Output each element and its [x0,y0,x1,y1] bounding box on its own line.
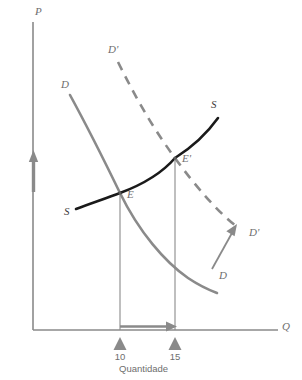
price-arrow-head [29,150,38,162]
xtick-marker-10 [114,337,127,350]
shift-arrow-head [226,224,237,236]
equilibrium-label-e: E [127,189,134,200]
curve-label-supply-top: S [211,99,217,110]
xtick-marker-15 [169,337,182,350]
demand-shift-arrow [212,224,237,269]
y-axis-symbol: P [35,6,42,17]
x-axis-symbol: Q [282,321,290,332]
shift-arrow-shaft [212,233,232,269]
supply-curve-s [76,118,218,209]
xtick-label-15: 15 [166,352,184,362]
chart-canvas [0,0,302,380]
curve-label-demand-top: D [61,79,69,90]
equilibrium-point-e-prime [173,156,176,159]
x-axis-title: Quantidade [119,364,168,374]
equilibrium-point-e [118,191,121,194]
curve-label-demand-shift-bottom: D' [249,227,259,238]
price-increase-arrow [29,150,38,192]
demand-curve-d-prime [118,62,236,226]
xtick-label-10: 10 [111,352,129,362]
curve-label-demand-shift-top: D' [108,44,118,55]
supply-demand-figure: P Q Preço Quantidade 10 15 D D D' D' S S… [0,0,302,380]
equilibrium-label-e-prime: E' [182,153,191,164]
demand-curve-d [70,95,217,293]
curve-label-supply-bottom: S [64,206,70,217]
curve-label-demand-bottom: D [219,270,227,281]
